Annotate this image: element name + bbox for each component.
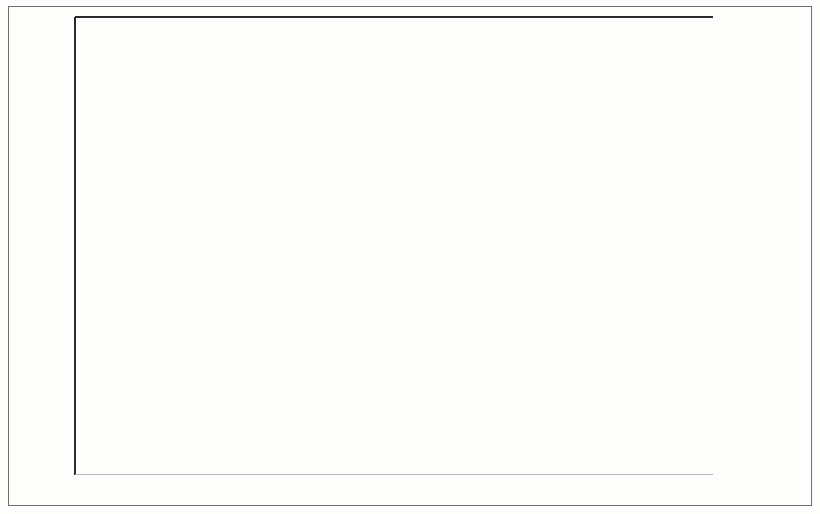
y-axis-tick-labels [14, 0, 66, 514]
chart-figure [0, 0, 820, 514]
x-axis-line [75, 474, 713, 475]
plot-area [75, 17, 668, 474]
